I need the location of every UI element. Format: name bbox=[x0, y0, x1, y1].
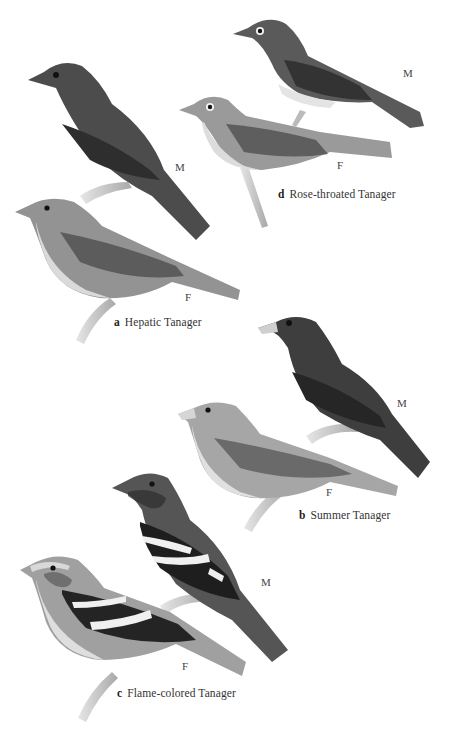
tanager-illustration-plate: M F M F M F M F dRose-throated Tanager a… bbox=[0, 0, 451, 733]
hepatic-female-label: F bbox=[185, 291, 191, 303]
caption-species-name: Hepatic Tanager bbox=[125, 316, 202, 328]
summer-female-label: F bbox=[326, 486, 332, 498]
summer-male-label: M bbox=[397, 397, 407, 409]
caption-summer-tanager: bSummer Tanager bbox=[299, 509, 390, 521]
rose-throated-male-label: M bbox=[403, 67, 413, 79]
caption-species-name: Flame-colored Tanager bbox=[127, 687, 236, 699]
summer-tanager-illustration bbox=[178, 317, 430, 532]
caption-letter: a bbox=[114, 316, 120, 328]
flame-colored-male-label: M bbox=[261, 576, 271, 588]
hepatic-male-label: M bbox=[175, 161, 185, 173]
caption-flame-colored-tanager: cFlame-colored Tanager bbox=[117, 687, 236, 699]
flame-colored-female-label: F bbox=[182, 660, 188, 672]
caption-letter: d bbox=[278, 188, 285, 200]
caption-rose-throated-tanager: dRose-throated Tanager bbox=[278, 188, 396, 200]
caption-species-name: Rose-throated Tanager bbox=[290, 188, 396, 200]
bird-illustrations bbox=[0, 0, 451, 733]
flame-colored-tanager-illustration bbox=[20, 473, 288, 722]
caption-hepatic-tanager: aHepatic Tanager bbox=[114, 316, 202, 328]
caption-species-name: Summer Tanager bbox=[311, 509, 391, 521]
caption-letter: c bbox=[117, 687, 122, 699]
caption-letter: b bbox=[299, 509, 306, 521]
rose-throated-female-label: F bbox=[337, 159, 343, 171]
